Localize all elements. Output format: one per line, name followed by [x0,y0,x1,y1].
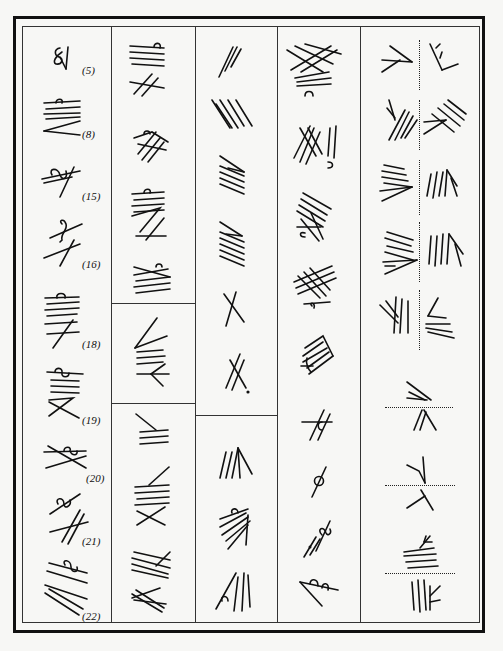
col5-pair-5-left [378,295,418,341]
sign-16-glyph [42,218,86,274]
col2-sign-1 [128,42,172,102]
col5-pair-4-right [427,230,467,278]
col5-pair-2-right [422,98,470,146]
col3-sign-5 [222,290,248,334]
dotted-divider-vertical [419,290,420,350]
sign-label: (20) [86,472,104,484]
col5-pair-7-bottom [405,488,437,516]
col4-sign-4 [292,262,342,312]
col2-sign-6 [134,412,174,450]
col3-sign-8 [218,505,258,555]
col2-sign-8 [130,550,174,624]
column-divider-3 [277,26,278,623]
col2-sign-2 [132,128,172,172]
col5-pair-4-left [381,230,421,282]
col3-sign-7 [218,446,258,486]
column-divider-2 [195,26,196,623]
dotted-divider-horizontal [385,485,455,486]
col5-pair-6-bottom [412,408,440,436]
col2-sign-4 [132,263,174,299]
column-3-cell-divider [195,415,277,416]
col2-sign-5 [133,316,173,396]
sign-label: (19) [82,414,100,426]
col3-sign-2 [210,98,260,136]
sign-8-glyph [42,97,86,141]
col3-sign-9 [214,571,258,619]
col5-pair-8-bottom [410,576,444,620]
dotted-divider-vertical [419,40,420,90]
column-2-cell-divider-1 [111,303,195,304]
dotted-divider-horizontal [385,573,455,574]
sign-5-glyph [50,45,80,89]
col4-sign-2 [292,122,346,176]
sign-20-glyph [42,444,90,478]
col2-sign-7 [133,463,173,533]
col5-pair-8-top [402,534,442,574]
sign-label: (15) [82,190,100,202]
col5-pair-2-left [385,98,421,148]
sign-label: (18) [82,338,100,350]
col4-sign-8 [302,519,334,563]
col4-sign-5 [299,334,339,382]
col5-pair-3-left [378,161,418,211]
col5-pair-1-right [428,42,464,80]
dotted-divider-vertical [419,160,420,215]
column-2-cell-divider-2 [111,403,195,404]
col3-sign-1 [217,45,247,83]
col4-sign-3 [293,191,337,251]
sign-18-glyph [43,292,87,356]
col5-pair-3-right [425,166,461,210]
col5-pair-6-top [405,380,435,408]
column-divider-1 [111,26,112,623]
col3-sign-3 [218,154,252,202]
col5-pair-5-right [424,296,464,344]
sign-15-glyph [40,163,84,207]
col3-sign-6 [224,352,254,400]
sign-label: (5) [82,64,95,76]
sign-label: (21) [82,535,100,547]
col4-sign-7 [310,465,330,503]
col2-sign-3 [130,188,170,248]
col5-pair-1-left [380,42,416,80]
col4-sign-9 [298,578,342,616]
sign-label: (16) [82,258,100,270]
col4-sign-6 [300,408,334,446]
column-divider-4 [360,26,361,623]
sign-label: (8) [82,128,95,140]
col4-sign-1 [285,42,347,102]
sign-label: (22) [82,610,100,622]
col3-sign-4 [218,220,252,272]
